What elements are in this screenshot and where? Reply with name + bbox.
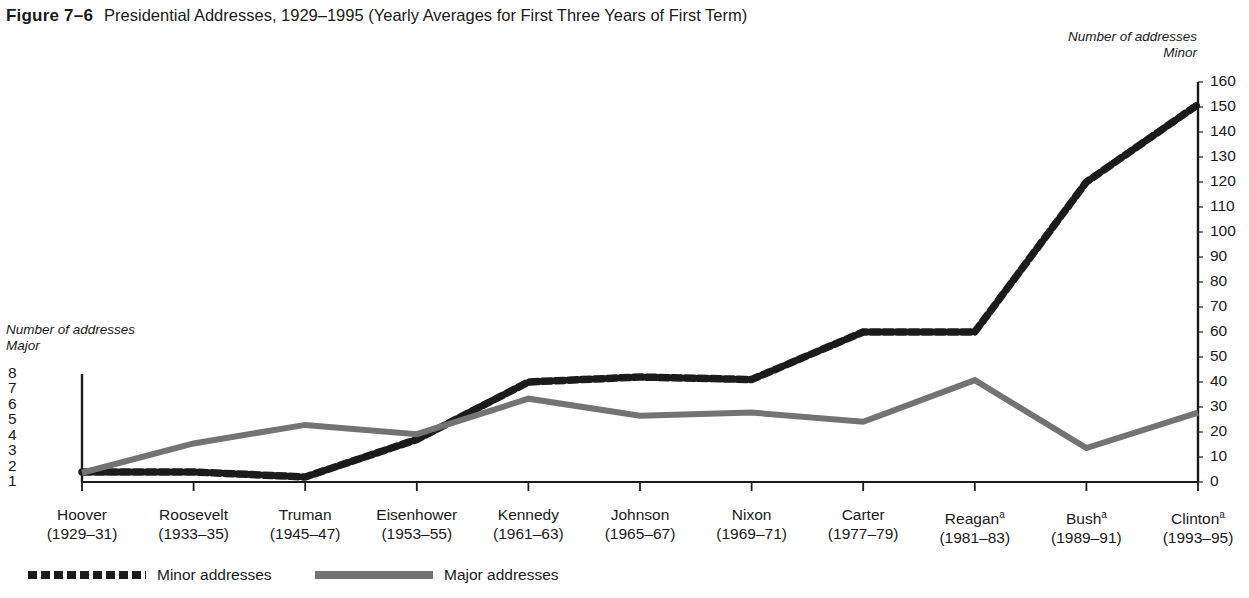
x-axis-category-name: Truman bbox=[270, 505, 341, 524]
x-axis-category-bush: Busha(1989–91) bbox=[1051, 505, 1122, 547]
left-axis-caption-line1: Number of addresses bbox=[6, 322, 135, 338]
x-axis-category-clinton: Clintona(1993–95) bbox=[1163, 505, 1234, 547]
x-axis-category-name: Eisenhower bbox=[376, 505, 457, 524]
x-axis-category-years: (1965–67) bbox=[605, 524, 676, 543]
right-axis-tick-label: 100 bbox=[1210, 223, 1236, 239]
page-title: Presidential Addresses, 1929–1995 (Yearl… bbox=[104, 6, 747, 24]
x-axis-category-reagan: Reagana(1981–83) bbox=[939, 505, 1010, 547]
figure-number: Figure 7–6 bbox=[6, 6, 93, 25]
footnote-marker: a bbox=[1101, 509, 1107, 520]
footnote-marker: a bbox=[1219, 509, 1225, 520]
right-axis-tick-label: 30 bbox=[1210, 398, 1227, 414]
dotted-line-key-icon bbox=[28, 571, 146, 579]
chart-axes bbox=[82, 82, 1198, 482]
x-axis-category-years: (1981–83) bbox=[939, 528, 1010, 547]
legend-item-major: Major addresses bbox=[315, 566, 559, 584]
right-axis-caption-line2: Minor bbox=[1068, 45, 1197, 61]
x-axis-category-name: Carter bbox=[828, 505, 899, 524]
left-axis-caption-line2: Major bbox=[6, 338, 135, 354]
right-axis-tick-label: 60 bbox=[1210, 323, 1227, 339]
solid-line-key-icon bbox=[315, 571, 433, 579]
x-axis-category-years: (1953–55) bbox=[376, 524, 457, 543]
x-axis-category-years: (1929–31) bbox=[47, 524, 118, 543]
right-axis-tick-label: 90 bbox=[1210, 248, 1227, 264]
x-axis-tick-marks bbox=[82, 482, 1198, 491]
x-axis-category-name: Hoover bbox=[47, 505, 118, 524]
x-axis-category-nixon: Nixon(1969–71) bbox=[716, 505, 787, 543]
right-axis-caption-line1: Number of addresses bbox=[1068, 29, 1197, 45]
x-axis-category-johnson: Johnson(1965–67) bbox=[605, 505, 676, 543]
left-axis-tick-label: 5 bbox=[8, 411, 26, 427]
series-line-minor-addresses bbox=[82, 105, 1198, 478]
left-axis-tick-label: 3 bbox=[8, 442, 26, 458]
left-axis-tick-label: 6 bbox=[8, 396, 26, 412]
left-axis-tick-label: 7 bbox=[8, 380, 26, 396]
x-axis-category-years: (1933–35) bbox=[158, 524, 229, 543]
left-axis-tick-label: 2 bbox=[8, 458, 26, 474]
x-axis-category-name: Reagana bbox=[939, 505, 1010, 528]
footnote-marker: a bbox=[999, 509, 1005, 520]
x-axis-category-eisenhower: Eisenhower(1953–55) bbox=[376, 505, 457, 543]
x-axis-category-years: (1945–47) bbox=[270, 524, 341, 543]
right-axis-tick-label: 40 bbox=[1210, 373, 1227, 389]
x-axis-category-years: (1961–63) bbox=[493, 524, 564, 543]
x-axis-category-name: Busha bbox=[1051, 505, 1122, 528]
right-axis-tick-label: 120 bbox=[1210, 173, 1236, 189]
x-axis-category-years: (1977–79) bbox=[828, 524, 899, 543]
left-axis-caption: Number of addresses Major bbox=[6, 322, 135, 353]
x-axis-category-roosevelt: Roosevelt(1933–35) bbox=[158, 505, 229, 543]
legend-item-minor: Minor addresses bbox=[28, 566, 272, 584]
right-axis-tick-label: 160 bbox=[1210, 73, 1236, 89]
figure-container: Figure 7–6Presidential Addresses, 1929–1… bbox=[0, 0, 1249, 598]
x-axis-category-years: (1969–71) bbox=[716, 524, 787, 543]
x-axis-category-name: Nixon bbox=[716, 505, 787, 524]
figure-title-row: Figure 7–6Presidential Addresses, 1929–1… bbox=[6, 6, 747, 26]
x-axis-category-labels: Hoover(1929–31)Roosevelt(1933–35)Truman(… bbox=[0, 505, 1249, 551]
x-axis-category-name: Johnson bbox=[605, 505, 676, 524]
x-axis-category-hoover: Hoover(1929–31) bbox=[47, 505, 118, 543]
x-axis-category-years: (1993–95) bbox=[1163, 528, 1234, 547]
right-axis-tick-label: 130 bbox=[1210, 148, 1236, 164]
x-axis-category-kennedy: Kennedy(1961–63) bbox=[493, 505, 564, 543]
right-axis-caption: Number of addresses Minor bbox=[1068, 29, 1197, 60]
chart-legend: Minor addresses Major addresses bbox=[0, 562, 1249, 592]
legend-label-major: Major addresses bbox=[444, 566, 559, 584]
right-axis-tick-marks bbox=[1198, 82, 1203, 482]
right-axis-tick-label: 140 bbox=[1210, 123, 1236, 139]
x-axis-category-carter: Carter(1977–79) bbox=[828, 505, 899, 543]
right-axis-tick-label: 80 bbox=[1210, 273, 1227, 289]
legend-label-minor: Minor addresses bbox=[157, 566, 272, 584]
x-axis-category-name: Roosevelt bbox=[158, 505, 229, 524]
right-axis-tick-label: 70 bbox=[1210, 298, 1227, 314]
right-axis-tick-label: 0 bbox=[1210, 473, 1219, 489]
x-axis-category-truman: Truman(1945–47) bbox=[270, 505, 341, 543]
x-axis-category-name: Clintona bbox=[1163, 505, 1234, 528]
x-axis-category-years: (1989–91) bbox=[1051, 528, 1122, 547]
left-axis-tick-label: 4 bbox=[8, 427, 26, 443]
series-line-major-addresses bbox=[82, 380, 1198, 473]
right-axis-tick-label: 50 bbox=[1210, 348, 1227, 364]
right-axis-tick-label: 150 bbox=[1210, 98, 1236, 114]
right-axis-tick-label: 20 bbox=[1210, 423, 1227, 439]
x-axis-category-name: Kennedy bbox=[493, 505, 564, 524]
right-axis-tick-label: 110 bbox=[1210, 198, 1235, 214]
left-axis-tick-label: 8 bbox=[8, 365, 26, 381]
left-axis-tick-label: 1 bbox=[8, 473, 26, 489]
right-axis-tick-label: 10 bbox=[1210, 448, 1227, 464]
